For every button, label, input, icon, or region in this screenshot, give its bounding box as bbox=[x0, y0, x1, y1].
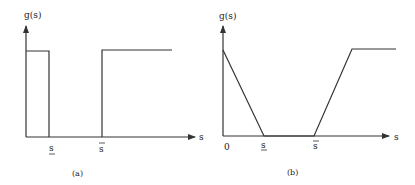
tick-s-upper: s bbox=[99, 143, 105, 154]
tick-s-lower: s bbox=[261, 140, 267, 150]
svg-text:s: s bbox=[313, 141, 318, 151]
x-axis-label: s bbox=[394, 132, 399, 142]
tick-s-lower: s bbox=[49, 143, 55, 154]
tick-origin: 0 bbox=[224, 142, 230, 152]
panel-b: g(s) s 0 s s (b) bbox=[219, 11, 399, 177]
svg-text:s: s bbox=[99, 144, 104, 154]
step-curve-right bbox=[102, 50, 172, 137]
y-axis-label: g(s) bbox=[219, 11, 236, 21]
caption-b: (b) bbox=[287, 168, 298, 177]
x-axis-label: s bbox=[199, 132, 204, 142]
tick-s-upper: s bbox=[313, 141, 319, 151]
panel-a: g(s) s s s (a) bbox=[24, 10, 204, 178]
figure: g(s) s s s (a) g(s) s 0 s s (b) bbox=[0, 0, 415, 185]
svg-text:s: s bbox=[261, 140, 266, 150]
caption-a: (a) bbox=[72, 169, 83, 178]
piecewise-linear-curve bbox=[223, 49, 396, 136]
step-curve bbox=[26, 51, 49, 137]
svg-text:s: s bbox=[49, 143, 54, 153]
y-axis-label: g(s) bbox=[24, 10, 41, 20]
